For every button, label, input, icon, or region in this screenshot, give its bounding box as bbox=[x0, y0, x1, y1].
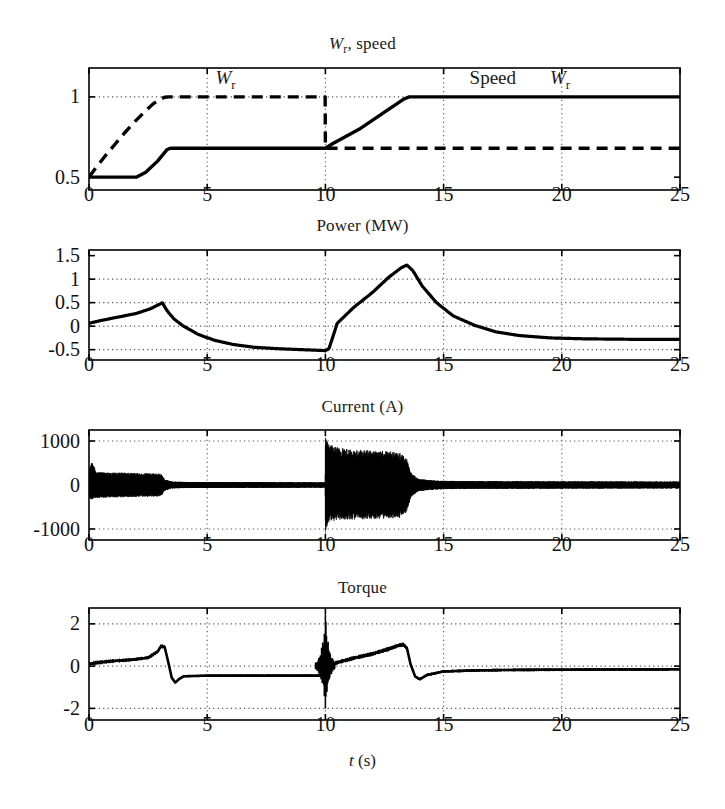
xtick-label: 0 bbox=[84, 353, 94, 375]
series-speed-actual bbox=[89, 97, 680, 177]
xtick-label: 20 bbox=[552, 183, 572, 205]
series-w_r-reference bbox=[89, 97, 680, 177]
data-series-group bbox=[89, 97, 680, 177]
xtick-label: 10 bbox=[315, 183, 335, 205]
plot-frame bbox=[89, 608, 680, 720]
ytick-label: 1 bbox=[70, 85, 80, 107]
xtick-label: 15 bbox=[434, 713, 454, 735]
xtick-label: 0 bbox=[84, 183, 94, 205]
ytick-label: 1.5 bbox=[55, 244, 80, 266]
plot-annotation-speed-1: Speed bbox=[470, 67, 516, 89]
xtick-label: 0 bbox=[84, 713, 94, 735]
xtick-label: 5 bbox=[202, 533, 212, 555]
series-torque-ripple bbox=[89, 643, 680, 684]
ytick-label: 1 bbox=[70, 268, 80, 290]
xtick-label: 15 bbox=[434, 533, 454, 555]
ytick-label: -2 bbox=[63, 697, 80, 719]
series-torque-spike bbox=[316, 614, 335, 708]
plot-frame bbox=[89, 250, 680, 360]
xtick-label: 10 bbox=[315, 713, 335, 735]
xtick-label: 25 bbox=[670, 183, 690, 205]
series-torque bbox=[89, 645, 680, 683]
x-axis-label: t (s) bbox=[0, 751, 725, 771]
xtick-label: 15 bbox=[434, 183, 454, 205]
ytick-label: 0.5 bbox=[55, 291, 80, 313]
panel-title-speed: Wr, speed bbox=[0, 34, 725, 56]
panel-title-current: Current (A) bbox=[0, 397, 725, 417]
panel-title-torque: Torque bbox=[0, 578, 725, 598]
xtick-label: 5 bbox=[202, 353, 212, 375]
series-current-oscillation bbox=[89, 438, 680, 532]
ytick-label: -1000 bbox=[33, 518, 80, 540]
xtick-label: 25 bbox=[670, 353, 690, 375]
ytick-label: 0 bbox=[70, 315, 80, 337]
xtick-label: 0 bbox=[84, 533, 94, 555]
panel-title-power: Power (MW) bbox=[0, 216, 725, 236]
plot-annotation-speed-0: Wr bbox=[215, 67, 235, 93]
ytick-label: 1000 bbox=[40, 430, 80, 452]
plot-frame bbox=[89, 430, 680, 540]
xtick-label: 25 bbox=[670, 713, 690, 735]
ytick-label: 0.5 bbox=[55, 166, 80, 188]
xtick-label: 10 bbox=[315, 533, 335, 555]
xtick-label: 25 bbox=[670, 533, 690, 555]
xtick-label: 10 bbox=[315, 353, 335, 375]
ytick-label: 0 bbox=[70, 474, 80, 496]
data-series-group bbox=[89, 438, 680, 532]
data-series-group bbox=[89, 614, 680, 708]
plot-annotation-speed-2: Wr bbox=[550, 67, 570, 93]
xtick-label: 20 bbox=[552, 353, 572, 375]
xtick-label: 5 bbox=[202, 713, 212, 735]
xtick-label: 15 bbox=[434, 353, 454, 375]
data-series-group bbox=[89, 265, 680, 350]
series-power bbox=[89, 265, 680, 350]
xtick-label: 20 bbox=[552, 713, 572, 735]
xtick-label: 5 bbox=[202, 183, 212, 205]
figure-simulation-results: Wr, speed0.510510152025WrSpeedWrPower (M… bbox=[0, 0, 725, 809]
plot-frame bbox=[89, 68, 680, 190]
ytick-label: 2 bbox=[70, 612, 80, 634]
ytick-label: -0.5 bbox=[48, 338, 80, 360]
ytick-label: 0 bbox=[70, 655, 80, 677]
xtick-label: 20 bbox=[552, 533, 572, 555]
